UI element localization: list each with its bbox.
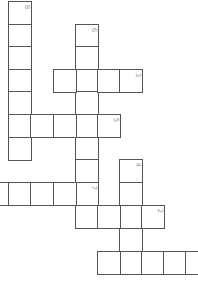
- crossword-cell[interactable]: [185, 251, 198, 275]
- crossword-cell[interactable]: [53, 69, 77, 93]
- crossword-cell[interactable]: [75, 159, 99, 183]
- crossword-cell[interactable]: [75, 46, 99, 70]
- crossword-cell[interactable]: [30, 182, 54, 206]
- crossword-cell[interactable]: [75, 205, 99, 229]
- crossword-cell[interactable]: 3: [119, 69, 143, 93]
- crossword-cell[interactable]: [8, 24, 32, 48]
- clue-number: 8: [23, 5, 31, 9]
- crossword-cell[interactable]: [53, 114, 77, 138]
- crossword-cell[interactable]: [119, 205, 143, 229]
- crossword-cell[interactable]: [97, 251, 121, 275]
- clue-number: 2: [156, 209, 164, 213]
- crossword-cell[interactable]: [75, 114, 99, 138]
- crossword-cell[interactable]: 6: [75, 24, 99, 48]
- crossword-cell[interactable]: [119, 182, 143, 206]
- crossword-cell[interactable]: [8, 137, 32, 161]
- crossword-cell[interactable]: [75, 137, 99, 161]
- clue-number: 3: [134, 73, 142, 77]
- crossword-cell[interactable]: [97, 69, 121, 93]
- crossword-cell[interactable]: [119, 251, 143, 275]
- crossword-cell[interactable]: [75, 91, 99, 115]
- crossword-cell[interactable]: [8, 91, 32, 115]
- clue-number: 6: [90, 28, 98, 32]
- crossword-cell[interactable]: [8, 69, 32, 93]
- crossword-cell[interactable]: [141, 251, 165, 275]
- crossword-cell[interactable]: [119, 228, 143, 252]
- crossword-cell[interactable]: 5: [97, 114, 121, 138]
- crossword-cell[interactable]: 8: [8, 1, 32, 25]
- crossword-cell[interactable]: 4: [119, 159, 143, 183]
- crossword-cell[interactable]: [8, 182, 32, 206]
- crossword-cell[interactable]: [30, 114, 54, 138]
- crossword-cell[interactable]: [53, 182, 77, 206]
- crossword-cell[interactable]: [8, 114, 32, 138]
- crossword-cell[interactable]: [8, 46, 32, 70]
- crossword-cell[interactable]: [75, 69, 99, 93]
- crossword-grid: 8673542: [0, 0, 198, 293]
- clue-number: 5: [112, 118, 120, 122]
- crossword-cell[interactable]: 7: [75, 182, 99, 206]
- clue-number: 7: [90, 186, 98, 190]
- crossword-cell[interactable]: [97, 205, 121, 229]
- clue-number: 4: [134, 163, 142, 167]
- crossword-cell[interactable]: [163, 251, 187, 275]
- crossword-cell[interactable]: 2: [141, 205, 165, 229]
